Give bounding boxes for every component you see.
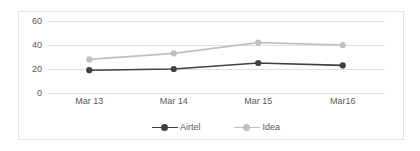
legend-marker-icon bbox=[152, 123, 178, 132]
legend-label: Airtel bbox=[180, 123, 201, 132]
data-point bbox=[255, 60, 261, 66]
data-point bbox=[171, 66, 177, 72]
line-chart: 0204060 Mar 13Mar 14Mar 15Mar16 AirtelId… bbox=[0, 0, 420, 151]
x-tick-label: Mar 14 bbox=[160, 97, 188, 106]
data-point bbox=[340, 42, 346, 48]
y-tick-label: 60 bbox=[32, 17, 42, 26]
legend-label: Idea bbox=[262, 123, 280, 132]
x-axis: Mar 13Mar 14Mar 15Mar16 bbox=[47, 97, 385, 111]
x-tick-label: Mar 15 bbox=[244, 97, 272, 106]
series-line-airtel bbox=[89, 63, 343, 70]
y-tick-label: 0 bbox=[37, 89, 42, 98]
legend-entry-airtel[interactable]: Airtel bbox=[152, 123, 201, 132]
chart-legend: AirtelIdea bbox=[47, 120, 385, 134]
legend-marker-icon bbox=[234, 123, 260, 132]
series-layer bbox=[47, 21, 385, 93]
x-tick-label: Mar 13 bbox=[75, 97, 103, 106]
x-tick-label: Mar16 bbox=[330, 97, 356, 106]
legend-entry-idea[interactable]: Idea bbox=[234, 123, 280, 132]
plot-area bbox=[47, 21, 385, 93]
y-tick-label: 40 bbox=[32, 41, 42, 50]
data-point bbox=[171, 50, 177, 56]
y-tick-label: 20 bbox=[32, 65, 42, 74]
series-line-idea bbox=[89, 43, 343, 60]
data-point bbox=[86, 56, 92, 62]
data-point bbox=[255, 40, 261, 46]
gridline-0 bbox=[47, 93, 385, 94]
data-point bbox=[86, 67, 92, 73]
data-point bbox=[340, 62, 346, 68]
y-axis: 0204060 bbox=[18, 0, 42, 151]
